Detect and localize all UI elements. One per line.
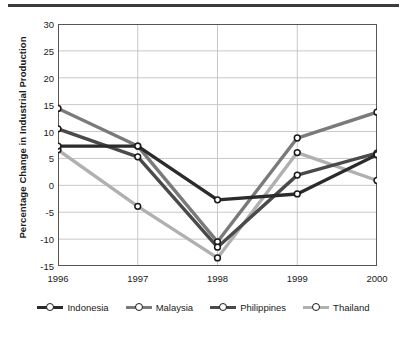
data-point-marker <box>294 135 300 141</box>
legend-label: Indonesia <box>67 302 108 313</box>
data-point-marker <box>294 191 300 197</box>
x-axis-tick-label: 1996 <box>47 273 68 284</box>
y-axis-tick-label: 20 <box>24 72 54 83</box>
legend-marker-icon <box>312 303 320 311</box>
y-axis-tick-label: 10 <box>24 126 54 137</box>
y-axis-tick-label: 0 <box>24 180 54 191</box>
x-axis-tick-label: 1998 <box>207 273 228 284</box>
legend-marker-icon <box>219 303 227 311</box>
legend-item-philippines[interactable]: Philippines <box>210 302 286 313</box>
x-axis-tick-label: 2000 <box>366 273 387 284</box>
y-axis-tick-label: -10 <box>24 234 54 245</box>
y-axis-tick-label: 25 <box>24 45 54 56</box>
y-axis-tick-label: -5 <box>24 207 54 218</box>
chart-figure: Percentage Change in Industrial Producti… <box>0 0 407 337</box>
legend-swatch-icon <box>303 303 329 312</box>
legend-marker-icon <box>46 303 54 311</box>
legend-swatch-icon <box>126 303 152 312</box>
data-point-marker <box>374 152 377 158</box>
data-point-marker <box>215 255 221 261</box>
legend-item-thailand[interactable]: Thailand <box>303 302 369 313</box>
chart-plot-container: Percentage Change in Industrial Producti… <box>0 12 407 302</box>
data-point-marker <box>58 106 61 112</box>
y-axis-tick-label: 15 <box>24 99 54 110</box>
legend-label: Malaysia <box>156 302 194 313</box>
data-point-marker <box>135 154 141 160</box>
x-axis-tick-label: 1997 <box>127 273 148 284</box>
header-rule <box>8 4 399 7</box>
y-axis-tick-label: 30 <box>24 19 54 30</box>
y-axis-tick-label: -15 <box>24 261 54 272</box>
legend-label: Philippines <box>240 302 286 313</box>
x-axis-tick-label: 1999 <box>287 273 308 284</box>
data-point-marker <box>58 126 61 132</box>
data-point-marker <box>294 150 300 156</box>
y-axis-tick-label: 5 <box>24 153 54 164</box>
data-point-marker <box>135 203 141 209</box>
data-point-marker <box>58 143 61 149</box>
plot-area: 302520151050-5-10-1519961997199819992000 <box>58 24 377 266</box>
legend-label: Thailand <box>333 302 369 313</box>
data-point-marker <box>374 178 377 184</box>
data-point-marker <box>215 197 221 203</box>
legend-item-indonesia[interactable]: Indonesia <box>37 302 108 313</box>
data-point-marker <box>135 143 141 149</box>
legend-swatch-icon <box>37 303 63 312</box>
legend-swatch-icon <box>210 303 236 312</box>
chart-legend: IndonesiaMalaysiaPhilippinesThailand <box>0 302 407 313</box>
data-point-marker <box>215 244 221 250</box>
data-point-marker <box>374 109 377 115</box>
legend-item-malaysia[interactable]: Malaysia <box>126 302 194 313</box>
legend-marker-icon <box>135 303 143 311</box>
line-chart-svg <box>58 24 377 266</box>
data-point-marker <box>294 172 300 178</box>
